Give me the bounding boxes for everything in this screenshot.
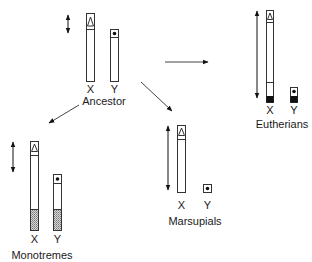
dot-icon <box>113 32 117 36</box>
dot-icon <box>292 90 296 94</box>
marsupials-x-chromosome <box>178 126 186 193</box>
marsupials-label: Marsupials <box>168 215 222 227</box>
ancestor-group: X Y Ancestor <box>68 14 126 108</box>
dot-icon <box>206 187 210 191</box>
monotremes-group: X Y Monotremes <box>11 142 73 262</box>
marsupials-group: X Y Marsupials <box>168 126 222 228</box>
monotremes-x-label: X <box>31 233 39 245</box>
eutherians-x-label: X <box>266 104 274 116</box>
eutherians-group: X Y Eutherians <box>256 11 309 131</box>
black-block <box>267 96 274 103</box>
hatched-block <box>54 210 61 231</box>
eutherians-label: Eutherians <box>256 118 309 130</box>
marsupials-y-chromosome <box>204 185 212 193</box>
arrow-to-monotremes-icon <box>49 105 79 123</box>
ancestor-label: Ancestor <box>82 95 126 107</box>
black-block <box>291 96 298 103</box>
arrow-to-marsupials-icon <box>141 82 172 111</box>
ancestor-y-chromosome <box>111 30 119 82</box>
eutherians-y-chromosome <box>291 88 298 103</box>
ancestor-x-label: X <box>87 83 95 95</box>
ancestor-x-chromosome <box>87 14 95 82</box>
hatched-block <box>31 210 38 231</box>
eutherians-y-label: Y <box>290 104 298 116</box>
dot-icon <box>56 177 60 181</box>
eutherians-x-chromosome <box>267 11 274 103</box>
monotremes-y-label: Y <box>54 233 62 245</box>
monotremes-y-chromosome <box>54 175 62 231</box>
marsupials-y-label: Y <box>204 199 212 211</box>
monotremes-x-chromosome <box>31 142 39 231</box>
ancestor-y-label: Y <box>111 83 119 95</box>
monotremes-label: Monotremes <box>11 249 73 261</box>
marsupials-x-label: X <box>178 199 186 211</box>
sex-chromosome-evolution-diagram: X Y Ancestor X Y Eutherians <box>0 0 312 262</box>
